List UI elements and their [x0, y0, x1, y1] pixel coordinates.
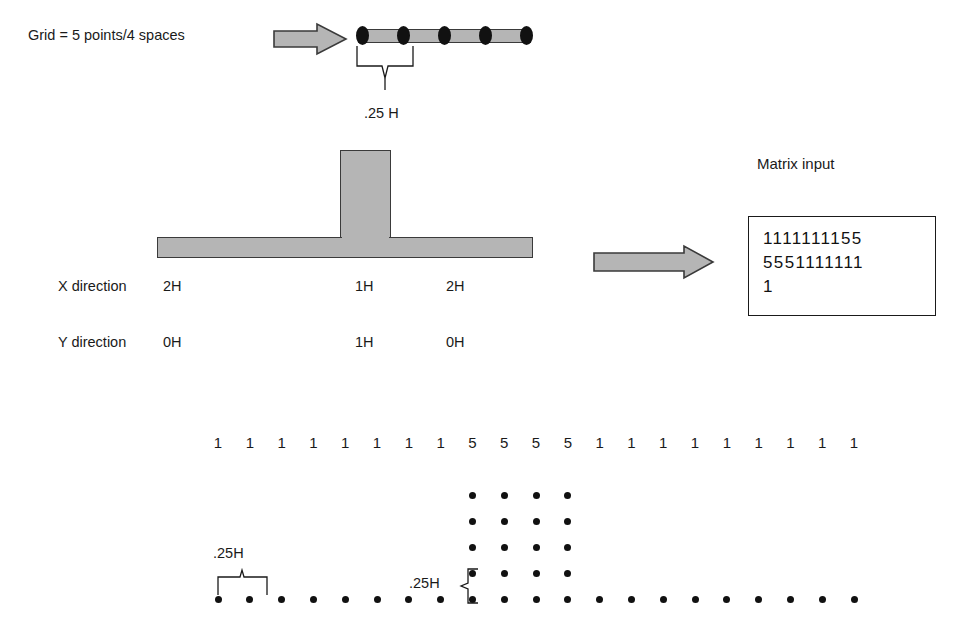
mesh-dot [469, 518, 476, 525]
mesh-number: 1 [627, 434, 635, 451]
mesh-number: 1 [436, 434, 444, 451]
mesh-dot [564, 518, 571, 525]
right-arrow-icon-top [272, 22, 350, 56]
mesh-dot [405, 596, 412, 603]
mesh-horizontal-spacing-brace [216, 565, 272, 597]
grid-bar-group [360, 26, 530, 46]
grid-spacing-label: .25 H [364, 105, 399, 122]
y-direction-value-center: 1H [355, 334, 374, 351]
mesh-number: 1 [754, 434, 762, 451]
grid-node [520, 26, 533, 45]
grid-node [479, 26, 492, 45]
mesh-dot [692, 596, 699, 603]
diagram-canvas: Grid = 5 points/4 spaces .25 H Matrix in… [0, 0, 955, 637]
x-direction-value-right: 2H [446, 278, 465, 295]
mesh-dot [501, 518, 508, 525]
mesh-dot [564, 544, 571, 551]
mesh-dot [533, 570, 540, 577]
mesh-number: 1 [723, 434, 731, 451]
y-direction-label: Y direction [58, 334, 126, 351]
mesh-dot [851, 596, 858, 603]
mesh-number: 1 [341, 434, 349, 451]
mesh-number: 1 [595, 434, 603, 451]
mesh-number: 5 [500, 434, 508, 451]
mesh-number: 1 [277, 434, 285, 451]
right-arrow-icon-matrix [592, 245, 716, 279]
mesh-dot [564, 596, 571, 603]
grid-node [397, 26, 410, 45]
mesh-number: 1 [373, 434, 381, 451]
mesh-dot [660, 596, 667, 603]
mesh-number: 5 [468, 434, 476, 451]
mesh-dot [628, 596, 635, 603]
mesh-dot [533, 492, 540, 499]
tsection-stem [340, 150, 391, 240]
mesh-vertical-spacing-brace [458, 567, 482, 605]
x-direction-value-center: 1H [355, 278, 374, 295]
mesh-dot [469, 544, 476, 551]
mesh-dot [564, 492, 571, 499]
x-direction-value-left: 2H [163, 278, 182, 295]
mesh-dot [501, 570, 508, 577]
mesh-dot [469, 492, 476, 499]
mesh-number: 1 [405, 434, 413, 451]
mesh-dot [310, 596, 317, 603]
mesh-number: 1 [818, 434, 826, 451]
mesh-dot [533, 518, 540, 525]
grid-node [356, 26, 369, 45]
mesh-dot [374, 596, 381, 603]
mesh-vertical-spacing-label: .25H [409, 575, 440, 592]
mesh-dot [342, 596, 349, 603]
mesh-number: 1 [214, 434, 222, 451]
mesh-dot [787, 596, 794, 603]
mesh-dot [533, 544, 540, 551]
matrix-input-values: 1111111155 5551111111 1 [763, 227, 864, 299]
mesh-number: 5 [564, 434, 572, 451]
mesh-number: 5 [532, 434, 540, 451]
mesh-dot [501, 492, 508, 499]
mesh-dot [723, 596, 730, 603]
y-direction-value-right: 0H [446, 334, 465, 351]
grid-node [438, 26, 451, 45]
mesh-dot [437, 596, 444, 603]
mesh-dot [755, 596, 762, 603]
mesh-number: 1 [309, 434, 317, 451]
mesh-number: 1 [786, 434, 794, 451]
mesh-dot [501, 544, 508, 551]
mesh-dot [278, 596, 285, 603]
grid-spacing-brace [354, 44, 424, 92]
mesh-number: 1 [246, 434, 254, 451]
matrix-input-box: 1111111155 5551111111 1 [748, 216, 936, 316]
mesh-number: 1 [691, 434, 699, 451]
matrix-input-title: Matrix input [757, 155, 835, 173]
mesh-dot [533, 596, 540, 603]
mesh-horizontal-spacing-label: .25H [213, 545, 244, 562]
mesh-number: 1 [850, 434, 858, 451]
tsection-joint [342, 236, 389, 240]
grid-definition-label: Grid = 5 points/4 spaces [28, 27, 185, 44]
mesh-number: 1 [659, 434, 667, 451]
mesh-dot [596, 596, 603, 603]
mesh-dot [819, 596, 826, 603]
mesh-dot [564, 570, 571, 577]
mesh-dot [501, 596, 508, 603]
y-direction-value-left: 0H [163, 334, 182, 351]
x-direction-label: X direction [58, 278, 127, 295]
tsection-flange [157, 237, 533, 258]
